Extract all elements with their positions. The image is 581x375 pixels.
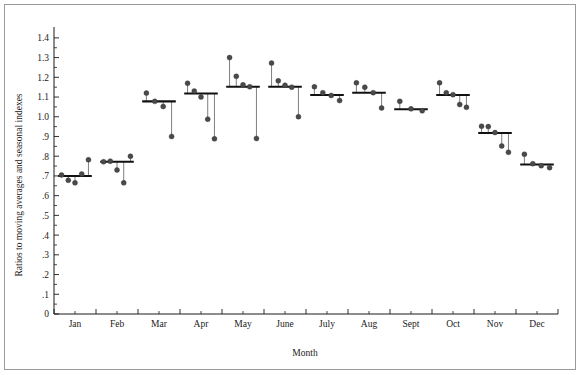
data-point [247, 84, 252, 89]
x-tick-label: Mar [151, 319, 168, 329]
data-point [169, 134, 174, 139]
y-axis-title: Ratios to moving averages and seasonal i… [14, 93, 24, 276]
y-tick-label: .9 [42, 132, 49, 142]
data-point [86, 157, 91, 162]
data-point [312, 84, 317, 89]
data-point [212, 136, 217, 141]
data-point [371, 90, 376, 95]
data-point [79, 171, 84, 176]
x-tick-label: Jan [69, 319, 82, 329]
data-point [499, 143, 504, 148]
data-point [115, 168, 120, 173]
data-point [354, 80, 359, 85]
data-point [329, 93, 334, 98]
data-point [144, 91, 149, 96]
data-point [479, 124, 484, 129]
data-point [451, 92, 456, 97]
data-point [464, 105, 469, 110]
y-tick-label: 1.4 [37, 33, 49, 43]
y-tick-label: 1.0 [37, 112, 49, 122]
data-point [269, 61, 274, 66]
data-point [283, 83, 288, 88]
y-tick-label: .1 [42, 290, 49, 300]
data-point [73, 180, 78, 185]
figure-frame: 0.1.2.3.4.5.6.7.8.91.01.11.21.31.4 JanFe… [4, 4, 576, 370]
y-tick-label: 0 [44, 309, 49, 319]
y-tick-label: .8 [42, 152, 49, 162]
data-point [128, 154, 133, 159]
data-point [437, 80, 442, 85]
y-tick-label: .2 [42, 270, 49, 280]
data-point [337, 98, 342, 103]
data-point [121, 180, 126, 185]
data-point [493, 130, 498, 135]
data-point [320, 90, 325, 95]
x-tick-label: Sept [403, 319, 420, 329]
data-point [66, 178, 71, 183]
y-tick-label: .3 [42, 250, 49, 260]
chart-canvas: 0.1.2.3.4.5.6.7.8.91.01.11.21.31.4 JanFe… [5, 5, 576, 370]
data-point [522, 152, 527, 157]
x-tick-label: July [319, 319, 335, 329]
y-tick-label: .6 [42, 191, 49, 201]
y-tick-label: 1.3 [37, 53, 49, 63]
data-point [547, 165, 552, 170]
data-point [379, 105, 384, 110]
data-point [108, 159, 113, 164]
x-tick-label: Aug [361, 319, 378, 329]
data-point [101, 159, 106, 164]
data-point [192, 89, 197, 94]
data-point [530, 161, 535, 166]
data-point [59, 172, 64, 177]
x-tick-label: June [276, 319, 293, 329]
x-axis-title: Month [292, 348, 318, 358]
y-tick-label: 1.2 [37, 73, 49, 83]
data-point [362, 85, 367, 90]
data-point [506, 150, 511, 155]
data-point [397, 99, 402, 104]
x-tick-label: Nov [487, 319, 504, 329]
data-point [296, 114, 301, 119]
data-point [457, 102, 462, 107]
data-point [486, 124, 491, 129]
y-tick-label: .4 [42, 231, 49, 241]
y-tick-label: 1.1 [37, 92, 49, 102]
data-point [227, 55, 232, 60]
data-point [276, 78, 281, 83]
data-point [152, 99, 157, 104]
data-point [409, 106, 414, 111]
data-point [161, 104, 166, 109]
data-point [241, 82, 246, 87]
data-point [539, 163, 544, 168]
plot-background [5, 5, 576, 370]
data-point [205, 117, 210, 122]
x-tick-label: Apr [194, 319, 210, 329]
x-tick-label: Oct [446, 319, 460, 329]
data-point [289, 85, 294, 90]
data-point [199, 95, 204, 100]
data-point [234, 74, 239, 79]
x-tick-label: Dec [529, 319, 544, 329]
x-tick-label: May [234, 319, 252, 329]
data-point [185, 81, 190, 86]
data-point [444, 90, 449, 95]
y-tick-label: .5 [42, 211, 49, 221]
data-point [254, 136, 259, 141]
x-tick-label: Feb [110, 319, 125, 329]
data-point [420, 108, 425, 113]
y-tick-label: .7 [42, 171, 49, 181]
